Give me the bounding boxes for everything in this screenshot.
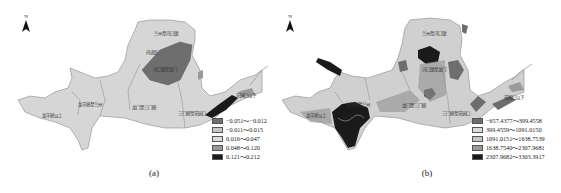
legend-item: 0.121～0.212	[212, 152, 267, 161]
legend-item: 1638.7540～2307.9681	[472, 143, 545, 152]
region-label: 兰州至河口镇	[422, 30, 446, 36]
legend-a: −0.051～−0.012 −0.011～0.015 0.016～0.047 0…	[212, 116, 267, 161]
legend-swatch	[472, 154, 483, 160]
legend-swatch	[212, 154, 223, 160]
region-label: 龙羊峡至兰州	[78, 101, 102, 107]
legend-item: 2307.9682～3303.3917	[472, 152, 545, 161]
legend-item: −0.011～0.015	[212, 125, 267, 134]
region-label: 三门峡至花园口	[442, 110, 470, 116]
legend-swatch	[472, 118, 483, 124]
region-label: 龙羊峡至兰州	[346, 101, 370, 107]
zone-dark-ne	[462, 24, 468, 34]
legend-item: 399.4559～1091.0150	[472, 125, 545, 134]
north-arrow: N	[22, 14, 30, 33]
north-arrow-icon	[22, 20, 30, 32]
legend-item: −0.051～−0.012	[212, 116, 267, 125]
map-panel-b: N 兰州至河口镇 河口镇至龙门 龙羊峡至兰州 龙羊峡以上 龙门至三门峡 三门峡至…	[280, 0, 560, 193]
region-label: 内流区	[146, 49, 158, 55]
region-label: 河口镇至龙门	[422, 66, 446, 72]
region-label: 龙门至三门峡	[132, 104, 156, 110]
region-label: 三门峡至花园口	[178, 110, 206, 116]
legend-swatch	[212, 118, 223, 124]
legend-swatch	[212, 136, 223, 142]
map-panel-a: N 兰州至河口镇 内流区 河口镇至龙门 龙羊峡至兰州 龙羊峡以上 龙门至三门峡 …	[0, 0, 280, 193]
caption-b: (b)	[407, 168, 447, 178]
region-label: 龙羊峡以上	[42, 112, 62, 118]
legend-b: −657.4377～399.4558 399.4559～1091.0150 10…	[472, 116, 545, 161]
region-label: 花园口以下	[236, 92, 256, 98]
region-label: 河口镇至龙门	[153, 66, 177, 72]
legend-swatch	[472, 136, 483, 142]
region-label: 兰州至河口镇	[154, 30, 178, 36]
legend-swatch	[472, 127, 483, 133]
legend-swatch	[212, 127, 223, 133]
legend-item: −657.4377～399.4558	[472, 116, 545, 125]
legend-swatch	[212, 145, 223, 151]
zone-black-nw	[316, 58, 342, 76]
north-arrow: N	[286, 14, 294, 33]
region-label: 龙门至三门峡	[402, 102, 426, 108]
region-label: 花园口以下	[504, 94, 524, 100]
caption-a: (a)	[134, 168, 174, 178]
legend-item: 1091.0151～1638.7539	[472, 134, 545, 143]
legend-swatch	[472, 145, 483, 151]
legend-item: 0.048～0.120	[212, 143, 267, 152]
legend-item: 0.016～0.047	[212, 134, 267, 143]
north-arrow-icon	[286, 20, 294, 32]
region-label: 龙羊峡以上	[306, 112, 326, 118]
